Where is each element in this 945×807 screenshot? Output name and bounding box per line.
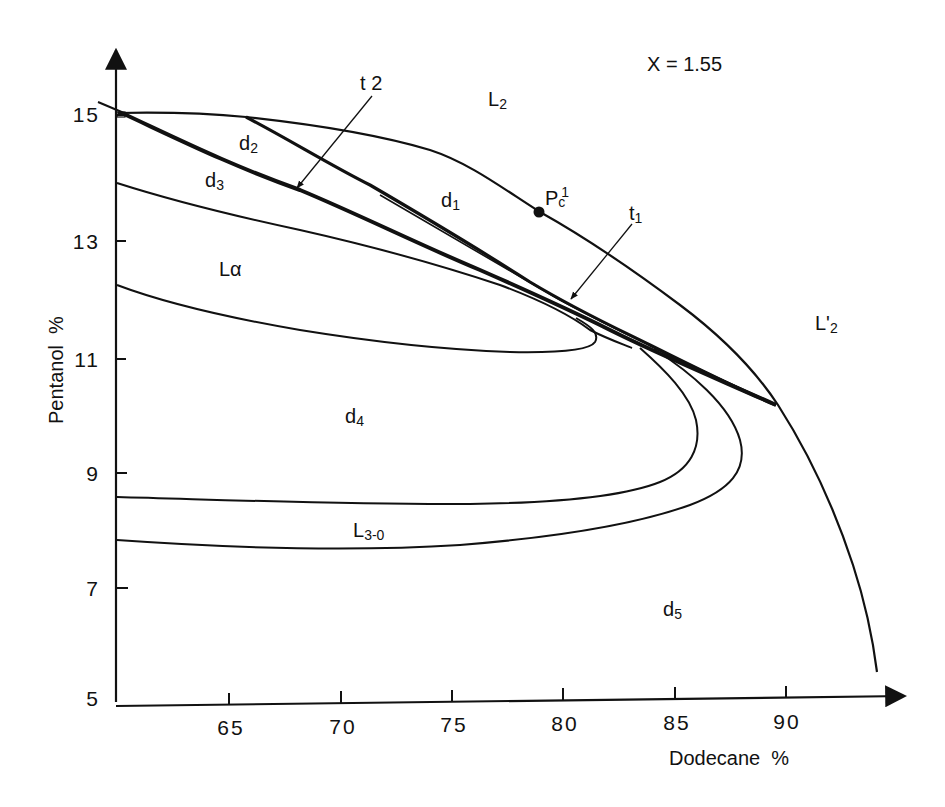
tie-line-label-t1-sub: 1 [635, 210, 643, 226]
x-axis-title: Dodecane % [669, 748, 789, 768]
y-tick-label-7: 7 [60, 578, 100, 599]
region-label-l3-0-main: L [353, 519, 364, 541]
critical-point-marker [534, 207, 545, 218]
tie-line-label-t2: t 2 [360, 73, 382, 93]
region-label-l-prime-2: L'2 [815, 313, 838, 335]
x-tick-label-70: 70 [329, 716, 356, 737]
l3-0-boundary-loop [117, 349, 742, 549]
y-axis [116, 50, 128, 702]
t2-pointer-line [297, 96, 372, 188]
y-axis-title: Pentanol % [46, 316, 66, 424]
region-label-d5: d5 [663, 599, 682, 621]
region-label-d4-main: d [345, 405, 356, 427]
x-tick-label-80: 80 [551, 713, 578, 734]
region-label-l3-0: L3-0 [353, 520, 384, 542]
region-label-l3-0-sub: 3-0 [364, 527, 384, 543]
region-label-l2-sub: 2 [499, 96, 507, 112]
region-label-d3: d3 [205, 170, 224, 192]
tie-line-label-t2-main: t [360, 72, 366, 94]
d4-boundary-loop [117, 348, 698, 504]
tie-line-label-t2-num: 2 [371, 72, 382, 94]
parameter-label: X = 1.55 [647, 54, 722, 74]
x-tick-label-75: 75 [440, 714, 467, 735]
region-label-d1-main: d [441, 189, 452, 211]
region-label-l-alpha: Lα [219, 259, 242, 279]
x-tick-label-65: 65 [217, 717, 244, 738]
region-label-d2: d2 [239, 133, 258, 155]
region-label-d5-sub: 5 [674, 606, 682, 622]
upper-binodal-curve [118, 113, 877, 672]
tie-line-extension-stub [98, 102, 124, 113]
region-label-l2: L2 [488, 89, 507, 111]
region-label-l-prime-2-sub: 2 [830, 320, 838, 336]
x-tick-label-85: 85 [663, 712, 690, 733]
critical-point-label-main: P [545, 187, 558, 209]
region-label-d1-sub: 1 [452, 197, 460, 213]
y-tick-label-13: 13 [60, 231, 100, 252]
region-label-d3-main: d [205, 169, 216, 191]
x-axis [116, 686, 905, 706]
region-label-d4-sub: 4 [356, 413, 364, 429]
region-label-d3-sub: 3 [216, 177, 224, 193]
y-tick-label-5: 5 [60, 688, 100, 709]
region-label-l-prime-2-main: L' [815, 312, 830, 334]
region-label-d4: d4 [345, 406, 364, 428]
region-label-d2-sub: 2 [250, 140, 258, 156]
region-label-d1: d1 [441, 190, 460, 212]
critical-point-label: Pc1 [545, 185, 569, 209]
phase-diagram-plot [0, 0, 945, 807]
y-tick-label-15: 15 [60, 104, 100, 125]
x-tick-label-90: 90 [773, 711, 800, 732]
region-label-l2-main: L [488, 88, 499, 110]
region-label-d5-main: d [663, 598, 674, 620]
region-label-d2-main: d [239, 132, 250, 154]
tie-line-label-t1: t1 [629, 203, 642, 225]
region-label-l-alpha-main: Lα [219, 258, 242, 280]
critical-point-label-sup: 1 [561, 184, 569, 200]
y-tick-label-9: 9 [60, 463, 100, 484]
d2-d1-boundary-thick [246, 117, 776, 405]
